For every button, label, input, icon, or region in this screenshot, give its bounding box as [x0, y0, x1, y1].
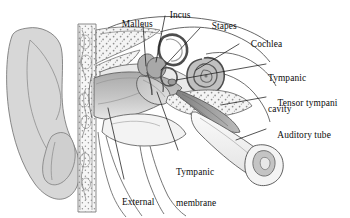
- label-tympanic-membrane-line-2: membrane: [176, 198, 216, 208]
- label-cochlea-line-1: Cochlea: [251, 39, 282, 49]
- temporal-bone-strip: [78, 24, 96, 212]
- label-tympanic-membrane-line-1: Tympanic: [176, 167, 216, 177]
- label-incus: Incus: [160, 0, 191, 31]
- label-external-acoustic-meatus: External acoustic meatus: [122, 176, 155, 218]
- label-tympanic-cavity-line-1: Tympanic: [268, 73, 306, 83]
- label-stapes: Stapes: [202, 11, 237, 42]
- label-malleus: Malleus: [112, 9, 153, 40]
- label-tensor-tympani: Tensor tympani: [268, 88, 337, 119]
- auricle-shape: [7, 28, 80, 200]
- label-auditory-tube: Auditory tube: [268, 120, 331, 151]
- ear-anatomy-figure: Malleus Incus Stapes Cochlea Tympanic ca…: [0, 0, 350, 218]
- label-malleus-line-1: Malleus: [122, 19, 153, 29]
- label-external-acoustic-meatus-line-1: External: [122, 197, 155, 207]
- label-tympanic-membrane: Tympanic membrane: [176, 146, 216, 218]
- label-tensor-tympani-line-1: Tensor tympani: [278, 98, 338, 108]
- label-incus-line-1: Incus: [170, 10, 191, 20]
- label-stapes-line-1: Stapes: [212, 21, 237, 31]
- label-auditory-tube-line-1: Auditory tube: [277, 130, 331, 140]
- cochlea-spiral: [187, 58, 224, 94]
- leader-auditory-tube: [236, 129, 266, 140]
